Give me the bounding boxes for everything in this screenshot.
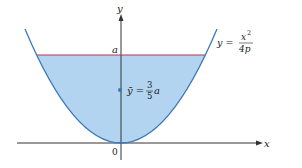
centroid-frac-numerator: 3 [147,80,152,90]
level-label-a: a [112,44,118,55]
y-axis-arrow-icon [119,14,124,21]
centroid-dot [118,88,122,92]
centroid-frac-denominator: 5 [147,91,152,101]
origin-label: 0 [112,147,118,157]
centroid-label-lhs: ȳ = [126,85,144,96]
curve-label-denominator: 4p [238,44,251,54]
diagram-canvas: y x 0 a y = x 2 4p ȳ = 3 5 a [0,0,302,168]
curve-label-numerator: x [241,32,246,42]
curve-label-lhs: y = [216,37,233,48]
x-axis-arrow-icon [256,141,263,146]
centroid-label-var: a [154,85,160,96]
curve-label-exponent: 2 [247,29,251,37]
y-axis-label: y [116,3,123,14]
x-axis-label: x [264,138,270,149]
